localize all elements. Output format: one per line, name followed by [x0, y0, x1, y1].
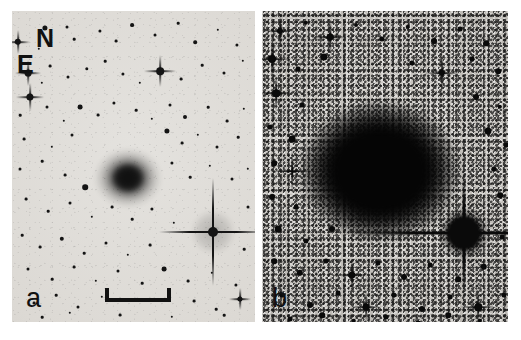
panel-b	[262, 11, 508, 322]
compass-east-label: E	[17, 52, 34, 77]
panel-a	[12, 11, 255, 322]
scale-bar-right-tick	[167, 288, 171, 302]
figure-container: N E a b	[0, 0, 521, 340]
panel-a-grain	[12, 11, 255, 322]
scale-bar-line	[105, 298, 171, 302]
scale-bar	[105, 288, 171, 302]
panel-a-label: a	[26, 285, 41, 312]
panel-b-label: b	[272, 285, 287, 312]
panel-b-grain	[262, 11, 508, 322]
compass-north-label: N	[36, 26, 54, 51]
